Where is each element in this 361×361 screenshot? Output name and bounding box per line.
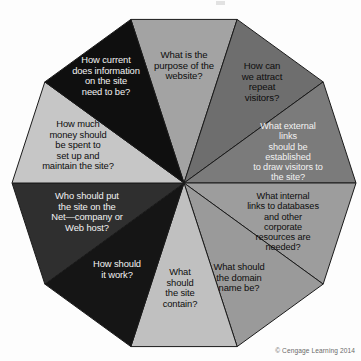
wedge-label-how-work: How should it work? [93,259,141,280]
wedge-label-internal-links: What internal links to databases and oth… [244,191,322,253]
wedge-label-domain-name: What should the domain name be? [213,262,264,294]
wedge-label-how-current: How current does information on the site… [72,55,140,97]
copyright-credit: © Cengage Learning 2014 [275,347,355,354]
wedge-label-site-contain: What should the site contain? [163,267,198,309]
figure-canvas: What is the purpose of the website?How c… [0,0,361,361]
wedge-label-repeat-visitors: How can we attract repeat visitors? [242,61,283,104]
wedge-label-who-hosts: Who should put the site on the Net—compa… [51,191,123,233]
wedge-label-external-links: What external links should be establishe… [252,121,325,183]
wedge-label-money: How much money should be spent to set up… [42,119,114,172]
wedge-label-purpose: What is the purpose of the website? [154,50,214,82]
